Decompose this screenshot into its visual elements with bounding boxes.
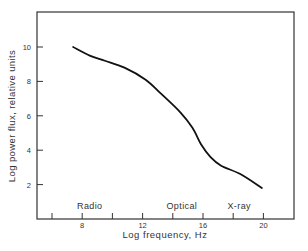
chart-figure: 246810 8121620 RadioOpticalX-ray Log fre… — [0, 0, 308, 251]
band-annotations: RadioOpticalX-ray — [77, 201, 251, 211]
plot-frame — [37, 12, 294, 219]
y-tick-label: 10 — [23, 43, 31, 52]
band-label: Optical — [166, 201, 197, 211]
y-tick-label: 8 — [27, 77, 31, 86]
band-label: X-ray — [227, 201, 251, 211]
y-tick-label: 2 — [27, 181, 31, 190]
x-tick-label: 20 — [259, 221, 267, 230]
y-axis-label: Log power flux, relative units — [6, 50, 17, 182]
y-axis-ticks: 246810 — [23, 43, 43, 190]
y-tick-label: 6 — [27, 112, 31, 121]
x-tick-label: 8 — [80, 221, 84, 230]
x-axis-ticks: 8121620 — [52, 213, 268, 230]
x-axis-label: Log frequency, Hz — [123, 229, 208, 240]
spectrum-line — [73, 47, 262, 188]
band-label: Radio — [77, 201, 103, 211]
y-tick-label: 4 — [27, 146, 31, 155]
